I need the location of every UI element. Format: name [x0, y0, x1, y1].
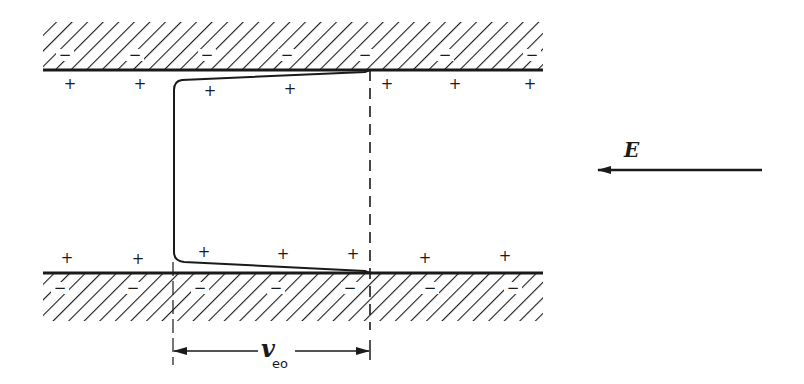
- negative-charge-icon: −: [281, 46, 294, 64]
- negative-charge-icon: −: [526, 46, 539, 64]
- field-label: E: [623, 138, 640, 162]
- negative-charge-icon: −: [127, 279, 140, 297]
- positive-ion-icon: +: [134, 75, 147, 93]
- negative-charge-icon: −: [439, 46, 452, 64]
- positive-ion-icon: +: [524, 75, 537, 93]
- positive-ion-icon: +: [198, 243, 211, 261]
- negative-charge-icon: −: [270, 279, 283, 297]
- positive-ion-icon: +: [64, 75, 77, 93]
- positive-ion-icon: +: [204, 82, 217, 100]
- positive-ion-icon: +: [381, 75, 394, 93]
- top-counter-ions: +++++++: [64, 75, 537, 100]
- negative-charge-icon: −: [424, 279, 437, 297]
- bottom-wall: −−−−−−− +++++++: [43, 243, 543, 321]
- negative-charge-icon: −: [54, 279, 67, 297]
- negative-charge-icon: −: [359, 46, 372, 64]
- positive-ion-icon: +: [347, 245, 360, 263]
- bottom-wall-hatching: [43, 273, 543, 321]
- positive-ion-icon: +: [419, 249, 432, 267]
- negative-charge-icon: −: [201, 46, 214, 64]
- electroosmosis-diagram: −−−−−−− +++++++ −−−−−−− +++++++ v eo E: [0, 0, 804, 384]
- top-wall: −−−−−−− +++++++: [43, 22, 543, 100]
- positive-ion-icon: +: [284, 80, 297, 98]
- positive-ion-icon: +: [132, 250, 145, 268]
- positive-ion-icon: +: [499, 247, 512, 265]
- positive-ion-icon: +: [449, 75, 462, 93]
- negative-charge-icon: −: [344, 279, 357, 297]
- velocity-dimension: v eo: [174, 334, 370, 371]
- negative-charge-icon: −: [194, 279, 207, 297]
- negative-charge-icon: −: [507, 279, 520, 297]
- negative-charge-icon: −: [59, 46, 72, 64]
- positive-ion-icon: +: [277, 245, 290, 263]
- negative-charge-icon: −: [129, 46, 142, 64]
- bottom-counter-ions: +++++++: [61, 243, 512, 268]
- positive-ion-icon: +: [61, 249, 74, 267]
- electric-field: E: [598, 138, 762, 170]
- velocity-subscript: eo: [272, 356, 288, 371]
